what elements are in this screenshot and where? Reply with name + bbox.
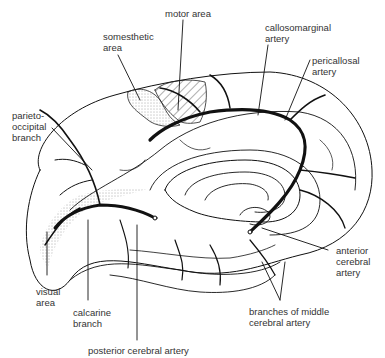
label-somesthetic-area: somesthetic area <box>103 31 154 53</box>
leader-pericallosal <box>285 60 310 120</box>
leader-middle-cerebral <box>262 262 285 300</box>
label-posterior-cerebral-artery: posterior cerebral artery <box>88 345 189 356</box>
label-motor-area: motor area <box>165 8 211 19</box>
label-calcarine-branch: calcarine branch <box>73 307 111 329</box>
callosomarginal-artery-line <box>290 95 325 120</box>
label-anterior-cerebral-artery: anterior cerebral artery <box>336 245 370 278</box>
anterior-cerebral-artery <box>150 110 305 232</box>
leader-parieto-occipital <box>52 128 92 170</box>
label-visual-area: visual area <box>36 286 60 308</box>
label-pericallosal-artery: pericallosal artery <box>312 55 360 77</box>
label-callosomarginal-artery: callosomarginal artery <box>265 22 331 44</box>
corpus-callosum <box>165 160 300 222</box>
leader-callosomarginal <box>258 45 268 115</box>
label-parieto-occipital-branch: parieto- occipital branch <box>12 110 46 143</box>
label-branches-middle-cerebral: branches of middle cerebral artery <box>249 306 329 328</box>
parieto-occipital-branch-line <box>40 110 100 205</box>
